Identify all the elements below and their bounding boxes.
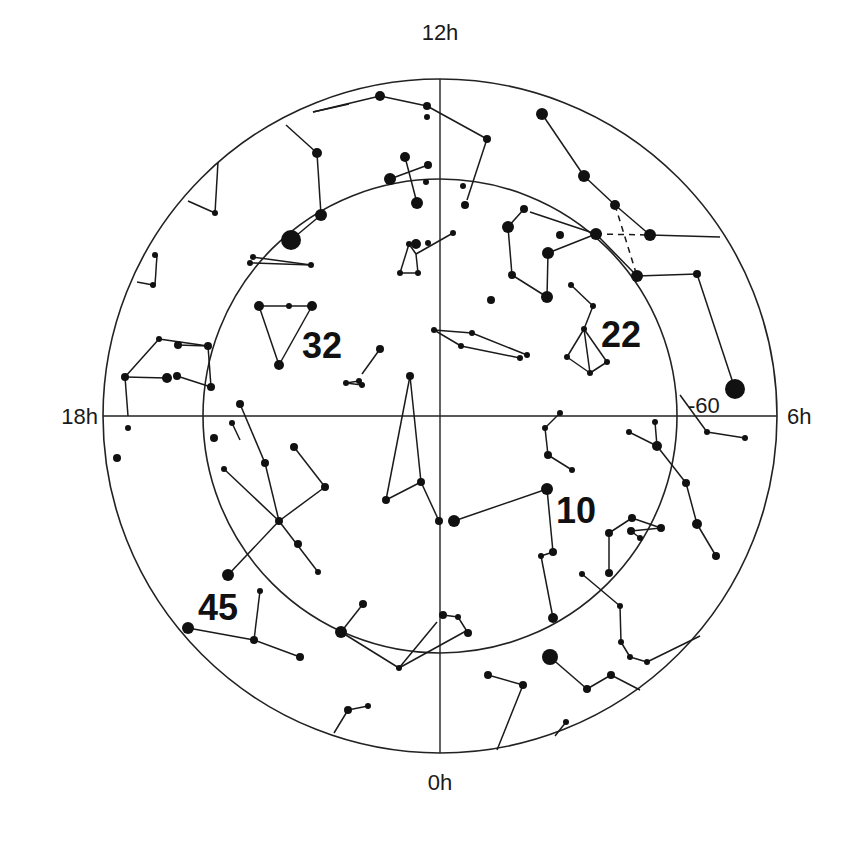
star-dot [590, 303, 596, 309]
star-dot [587, 370, 593, 376]
label-12h: 12h [422, 20, 459, 45]
constellation-line [686, 483, 697, 524]
star-dot [448, 515, 460, 527]
constellation-line [530, 212, 596, 234]
star-dot [508, 271, 516, 279]
star-dot [343, 380, 349, 386]
star-dot [431, 327, 437, 333]
star-dot [207, 383, 215, 391]
constellation-line [317, 153, 321, 215]
star-dot [627, 654, 633, 660]
constellation-line [125, 377, 128, 416]
constellation-line [259, 306, 279, 365]
constellation-lines [125, 96, 745, 750]
star-dot [152, 252, 158, 258]
constellation-line [584, 176, 615, 205]
star-dot [424, 114, 430, 120]
star-dot [344, 706, 352, 714]
constellation-line [313, 104, 349, 112]
star-dot [607, 671, 615, 679]
constellation-line [125, 339, 159, 377]
constellation-line [637, 274, 697, 276]
star-dot [520, 205, 528, 213]
star-dot [250, 636, 258, 644]
constellation-line [548, 234, 596, 253]
star-dot [296, 653, 304, 661]
constellation-line [416, 233, 453, 254]
star-dot [411, 197, 423, 209]
star-dot [579, 571, 585, 577]
star-dot [321, 483, 329, 491]
star-dot [542, 247, 554, 259]
star-dot [359, 382, 365, 388]
star-dot [605, 569, 613, 577]
star-dot [204, 342, 212, 350]
star-dot [548, 613, 558, 623]
star-dot [604, 359, 610, 365]
star-dot [281, 230, 301, 250]
star-dot [712, 552, 720, 560]
constellation-line [294, 447, 325, 487]
star-dot [406, 241, 412, 247]
constellation-line [497, 685, 523, 750]
star-dot [375, 91, 385, 101]
star-dot [542, 425, 548, 431]
constellation-line [611, 675, 640, 690]
constellation-line [547, 489, 553, 552]
star-dot [182, 622, 194, 634]
star-dot [487, 296, 495, 304]
constellation-line [454, 489, 547, 521]
constellation-line [631, 528, 661, 531]
star-dot [308, 262, 314, 268]
star-dot [424, 161, 432, 169]
star-dot [542, 649, 558, 665]
star-dot [581, 326, 587, 332]
star-dot [583, 685, 591, 693]
star-dot [294, 540, 302, 548]
star-dot [605, 529, 613, 537]
constellation-line [548, 455, 572, 470]
star-dot [397, 270, 403, 276]
constellation-line [596, 234, 650, 235]
constellation-line [254, 640, 300, 657]
star-dot [469, 330, 475, 336]
constellation-line [547, 253, 548, 297]
star-dot [400, 152, 410, 162]
star-dot [618, 639, 624, 645]
star-dot [742, 435, 748, 441]
star-dot [568, 282, 574, 288]
star-dot [382, 496, 390, 504]
constellation-line [228, 521, 279, 575]
star-dot [541, 291, 553, 303]
star-dot [274, 360, 284, 370]
star-dot [359, 600, 367, 608]
star-dot [536, 108, 548, 120]
star-dot [150, 282, 156, 288]
star-dot [290, 443, 298, 451]
label-18h: 18h [61, 404, 98, 429]
star-dot [275, 517, 283, 525]
star-dot [484, 671, 492, 679]
star-dot [396, 665, 402, 671]
constellation-line [380, 96, 427, 106]
star-dot [425, 240, 431, 246]
star-dot [557, 410, 563, 416]
star-dot [247, 260, 253, 266]
star-dot [569, 467, 575, 473]
star-dot [376, 345, 384, 353]
star-dot [423, 102, 431, 110]
star-dot [315, 209, 327, 221]
star-dot [544, 451, 552, 459]
constellation-line [421, 482, 439, 521]
star-dot [538, 553, 544, 559]
star-dot [502, 221, 514, 233]
constellation-line [657, 446, 686, 483]
star-dot [113, 454, 121, 462]
star-dot [704, 429, 710, 435]
constellation-line [125, 377, 167, 378]
star-dot [423, 179, 429, 185]
star-dot [415, 270, 421, 276]
star-dot [460, 183, 466, 189]
star-dot [519, 681, 527, 689]
constellation-line [697, 274, 735, 389]
